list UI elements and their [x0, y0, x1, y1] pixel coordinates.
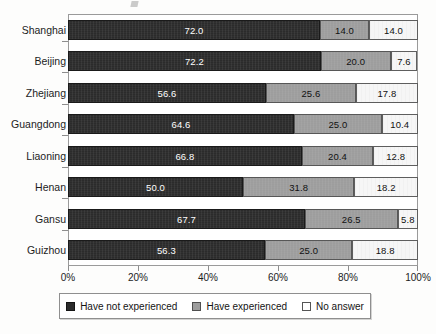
- legend-item: Have not experienced: [66, 301, 177, 312]
- y-axis-tick: [62, 72, 68, 73]
- bar-value-label: 25.0: [328, 119, 347, 130]
- bar-segment: 20.0: [321, 51, 391, 71]
- bar-row: 56.625.617.8: [68, 83, 418, 103]
- bar-value-label: 56.6: [158, 88, 177, 99]
- x-axis-tick-label: 100%: [393, 272, 436, 283]
- category-axis-labels: ShanghaiBeijingZhejiangGuangdongLiaoning…: [0, 14, 66, 266]
- category-label: Henan: [0, 177, 66, 197]
- legend-label: Have not experienced: [80, 301, 177, 312]
- bar-segment: 12.8: [373, 146, 418, 166]
- x-axis-tick-label: 0%: [43, 272, 93, 283]
- bar-segment: 10.4: [382, 114, 418, 134]
- legend-label: Have experienced: [206, 301, 287, 312]
- stacked-bar: 56.625.617.8: [68, 83, 418, 103]
- bar-segment: 7.6: [391, 51, 418, 71]
- bar-segment: 26.5: [305, 209, 398, 229]
- category-label: Liaoning: [0, 146, 66, 166]
- stacked-bar: 72.220.07.6: [68, 51, 418, 71]
- x-axis-tick-label: 80%: [323, 272, 373, 283]
- bar-value-label: 7.6: [397, 56, 411, 67]
- bar-segment: 5.8: [398, 209, 418, 229]
- bar-value-label: 10.4: [390, 119, 409, 130]
- bar-value-label: 31.8: [289, 182, 308, 193]
- bar-segment: 64.6: [68, 114, 294, 134]
- bar-value-label: 25.6: [301, 88, 320, 99]
- x-axis-tick: [138, 266, 139, 271]
- bar-value-label: 17.8: [377, 88, 396, 99]
- category-label: Gansu: [0, 209, 66, 229]
- x-axis-tick: [348, 266, 349, 271]
- y-axis-tick: [62, 198, 68, 199]
- x-axis-tick-label: 20%: [113, 272, 163, 283]
- stacked-bar: 67.726.55.8: [68, 209, 418, 229]
- y-axis-tick: [62, 230, 68, 231]
- bar-value-label: 20.0: [346, 56, 365, 67]
- y-axis-tick: [62, 167, 68, 168]
- bar-value-label: 12.8: [386, 151, 405, 162]
- x-axis-tick-label: 40%: [183, 272, 233, 283]
- legend-label: No answer: [316, 301, 364, 312]
- bar-value-label: 64.6: [172, 119, 191, 130]
- category-label: Shanghai: [0, 20, 66, 40]
- chart-legend: Have not experiencedHave experiencedNo a…: [59, 293, 371, 319]
- stacked-bar: 56.325.018.8: [68, 240, 418, 260]
- bar-rows: 72.014.014.072.220.07.656.625.617.864.62…: [68, 14, 418, 266]
- bar-segment: 14.0: [369, 20, 418, 40]
- y-axis-tick: [62, 104, 68, 105]
- bar-segment: 67.7: [68, 209, 305, 229]
- stacked-bar: 72.014.014.0: [68, 20, 418, 40]
- bar-segment: 56.3: [68, 240, 265, 260]
- bar-row: 56.325.018.8: [68, 240, 418, 260]
- bar-value-label: 72.0: [185, 25, 204, 36]
- bar-row: 64.625.010.4: [68, 114, 418, 134]
- bar-value-label: 50.0: [146, 182, 165, 193]
- x-axis-tick-label: 60%: [253, 272, 303, 283]
- bar-segment: 20.4: [302, 146, 373, 166]
- bar-value-label: 18.2: [377, 182, 396, 193]
- bar-value-label: 14.0: [335, 25, 354, 36]
- bar-value-label: 20.4: [328, 151, 347, 162]
- x-axis-tick: [278, 266, 279, 271]
- bar-segment: 18.2: [354, 177, 418, 197]
- bar-segment: 72.2: [68, 51, 321, 71]
- x-axis-tick: [417, 266, 418, 271]
- legend-swatch-icon: [66, 302, 75, 311]
- bar-segment: 18.8: [352, 240, 418, 260]
- legend-swatch-icon: [302, 302, 311, 311]
- category-label: Guizhou: [0, 240, 66, 260]
- bar-row: 50.031.818.2: [68, 177, 418, 197]
- legend-item: No answer: [302, 301, 364, 312]
- category-label: Guangdong: [0, 114, 66, 134]
- bar-value-label: 18.8: [376, 245, 395, 256]
- bar-segment: 50.0: [68, 177, 243, 197]
- bar-segment: 56.6: [68, 83, 266, 103]
- bar-value-label: 67.7: [177, 214, 196, 225]
- stacked-bar: 50.031.818.2: [68, 177, 418, 197]
- bar-segment: 25.0: [265, 240, 352, 260]
- legend-swatch-icon: [192, 302, 201, 311]
- bar-segment: 66.8: [68, 146, 302, 166]
- bar-segment: 17.8: [356, 83, 418, 103]
- category-label: Zhejiang: [0, 83, 66, 103]
- y-axis-tick: [62, 135, 68, 136]
- bar-row: 72.220.07.6: [68, 51, 418, 71]
- bar-value-label: 14.0: [384, 25, 403, 36]
- bar-segment: 14.0: [320, 20, 369, 40]
- bar-value-label: 72.2: [185, 56, 204, 67]
- bar-row: 66.820.412.8: [68, 146, 418, 166]
- legend-item: Have experienced: [192, 301, 287, 312]
- stacked-bar: 66.820.412.8: [68, 146, 418, 166]
- bar-value-label: 56.3: [157, 245, 176, 256]
- bar-segment: 25.0: [294, 114, 382, 134]
- bar-segment: 31.8: [243, 177, 354, 197]
- bar-segment: 25.6: [266, 83, 356, 103]
- bar-value-label: 5.8: [401, 214, 415, 225]
- bar-value-label: 26.5: [342, 214, 361, 225]
- category-label: Beijing: [0, 51, 66, 71]
- bar-segment: 72.0: [68, 20, 320, 40]
- bar-row: 72.014.014.0: [68, 20, 418, 40]
- x-axis-tick: [208, 266, 209, 271]
- stacked-bar: 64.625.010.4: [68, 114, 418, 134]
- x-axis-tick: [68, 266, 69, 271]
- scan-artifact: [130, 1, 138, 7]
